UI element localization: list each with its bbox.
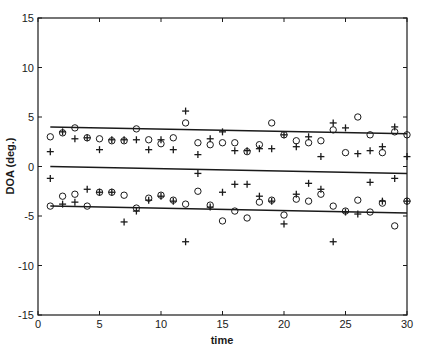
- x-axis-label: time: [211, 334, 234, 346]
- x-tick-label: 30: [401, 318, 413, 330]
- y-tick-label: -10: [18, 260, 34, 272]
- y-tick-label: 5: [28, 111, 34, 123]
- y-tick-label: -15: [18, 309, 34, 321]
- doa-scatter-chart: 051015202530-15-10-5051015 time DOA (deg…: [0, 0, 422, 352]
- y-tick-label: -5: [24, 210, 34, 222]
- x-tick-label: 20: [278, 318, 290, 330]
- x-tick-label: 10: [155, 318, 167, 330]
- y-tick-label: 10: [22, 62, 34, 74]
- x-tick-label: 0: [35, 318, 41, 330]
- x-tick-label: 15: [216, 318, 228, 330]
- x-tick-label: 25: [339, 318, 351, 330]
- y-tick-label: 15: [22, 12, 34, 24]
- background: [0, 0, 422, 352]
- x-tick-label: 5: [96, 318, 102, 330]
- y-axis-label: DOA (deg.): [4, 137, 16, 194]
- y-tick-label: 0: [28, 161, 34, 173]
